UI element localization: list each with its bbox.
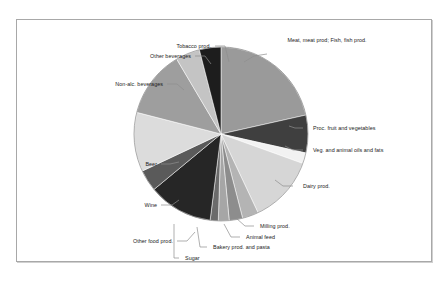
pie-slice-label: Beer (67, 161, 157, 168)
pie-slice-label: Milling prod. (260, 223, 360, 230)
pie-slice-label: Non-alc. beverages (53, 81, 163, 88)
pie-slice-label: Other beverages (101, 53, 191, 60)
leader-line (197, 227, 207, 247)
pie-slice-label: Meat, meat prod; Fish, fish prod. (279, 37, 375, 44)
chart-frame: Meat, meat prod; Fish, fish prod.Proc. f… (16, 19, 432, 262)
pie-slice-label: Other food prod. (63, 238, 173, 245)
pie-slice-label: Wine (67, 202, 157, 209)
pie-slice-label: Tobacco prod. (121, 43, 211, 50)
pie-slices-group (134, 47, 308, 221)
pie-slice-label: Proc. fruit and vegetables (313, 125, 433, 132)
pie-slice-label: Veg. and animal oils and fats (313, 147, 433, 154)
pie-slice-label: Animal feed (246, 234, 346, 241)
screenshot-root: Meat, meat prod; Fish, fish prod.Proc. f… (0, 0, 448, 282)
pie-svg (17, 20, 433, 263)
leader-line (224, 224, 240, 237)
pie-slice-label: Bakery prod. and pasta (213, 244, 333, 251)
leader-line (177, 232, 195, 241)
pie-slice-label: Sugar (185, 255, 265, 262)
pie-slice-label: Dairy prod. (303, 183, 413, 190)
pie-chart[interactable]: Meat, meat prod; Fish, fish prod.Proc. f… (17, 20, 433, 263)
